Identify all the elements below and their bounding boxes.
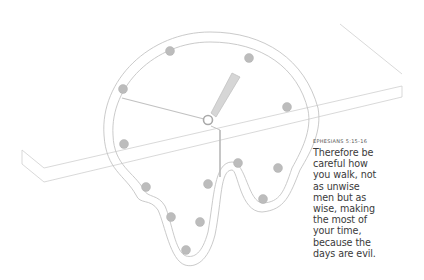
hour-marker [283,103,292,112]
hour-marker [204,180,213,189]
clock-hands [122,73,240,177]
hour-marker [196,218,205,227]
hour-marker [119,85,128,94]
hour-marker [259,195,268,204]
hour-marker [167,213,176,222]
verse-line: careful how [313,158,421,169]
hour-marker [166,47,175,56]
hour-marker [182,246,191,255]
verse-line: wise, making [313,203,421,214]
verse-line: your time, [313,225,421,236]
hour-marker [245,54,254,63]
verse-line: because the [313,237,421,248]
hour-markers [119,47,292,255]
hour-hand [211,73,240,117]
clock-body [104,32,319,266]
hour-marker [142,183,151,192]
verse-line: the most of [313,214,421,225]
verse-reference: EPHESIANS 5:15-16 [313,138,421,144]
verse-line: Therefore be [313,147,421,158]
clock-center [204,116,213,125]
verse-line: days are evil. [313,248,421,259]
minute-hand [122,98,204,119]
hour-marker [274,164,283,173]
verse-block: EPHESIANS 5:15-16 Therefore be careful h… [313,138,421,259]
verse-line: you walk, not [313,169,421,180]
verse-line: men but as [313,192,421,203]
hour-marker [234,159,243,168]
verse-line: as unwise [313,181,421,192]
hour-marker [120,140,129,149]
